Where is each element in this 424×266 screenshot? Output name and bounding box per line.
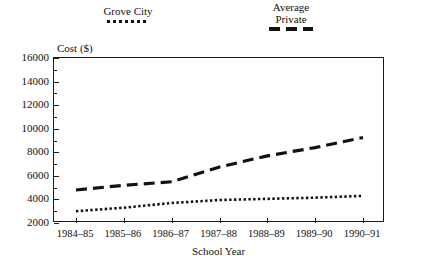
dashed-line-swatch-icon [269,27,313,31]
y-axis-tick-major [54,82,59,83]
y-axis-tick-label: 10000 [22,122,50,134]
x-axis-title: School Year [53,245,384,257]
x-axis-tick [267,218,268,223]
y-axis-tick-major [54,223,59,224]
y-axis-tick-minor [54,141,57,142]
y-axis-tick-minor [54,164,57,165]
y-axis-tick-label: 6000 [27,169,49,181]
y-axis-tick-major [54,58,59,59]
x-axis-tick-label: 1990–91 [344,228,381,239]
x-axis-tick [76,218,77,223]
x-axis-tick [315,218,316,223]
legend-label-average-private: Average Private [248,2,334,25]
y-axis-tick-label: 16000 [22,51,50,63]
y-axis-tick-label: 12000 [22,98,50,110]
dotted-line-swatch-icon [107,20,149,23]
plot-area [53,57,384,222]
y-axis-tick-minor [54,211,57,212]
y-axis-tick-major [54,129,59,130]
x-axis-tick [124,218,125,223]
legend-item-grove-city[interactable]: Grove City [88,6,168,23]
series-line-grove-city [76,196,363,211]
x-axis-tick-label: 1986–87 [152,228,189,239]
y-axis-tick-minor [54,93,57,94]
x-axis-tick-label: 1989–90 [296,228,333,239]
series-layer [54,58,385,223]
legend-label-grove-city: Grove City [88,6,168,18]
x-axis-tick-labels: 1984–851985–861986–871987–881988–891989–… [53,228,384,244]
x-axis-tick-label: 1985–86 [104,228,141,239]
x-axis-tick [172,218,173,223]
y-axis-title: Cost ($) [57,42,93,54]
y-axis-tick-label: 2000 [27,216,49,228]
y-axis-tick-major [54,105,59,106]
x-axis-tick-label: 1984–85 [57,228,94,239]
x-axis-tick [220,218,221,223]
y-axis-tick-label: 14000 [22,75,50,87]
y-axis-tick-major [54,199,59,200]
x-axis-tick-label: 1988–89 [248,228,285,239]
y-axis-tick-minor [54,70,57,71]
y-axis-tick-major [54,176,59,177]
chart-figure: Grove City Average Private Cost ($) 2000… [0,0,424,266]
legend-item-average-private[interactable]: Average Private [248,2,334,31]
series-line-average-private [76,138,363,190]
x-axis-tick-label: 1987–88 [200,228,237,239]
y-axis-tick-labels: 200040006000800010000120001400016000 [0,57,49,222]
x-axis-tick [363,218,364,223]
y-axis-tick-major [54,152,59,153]
y-axis-tick-minor [54,117,57,118]
y-axis-tick-label: 8000 [27,145,49,157]
y-axis-tick-minor [54,188,57,189]
y-axis-tick-label: 4000 [27,192,49,204]
